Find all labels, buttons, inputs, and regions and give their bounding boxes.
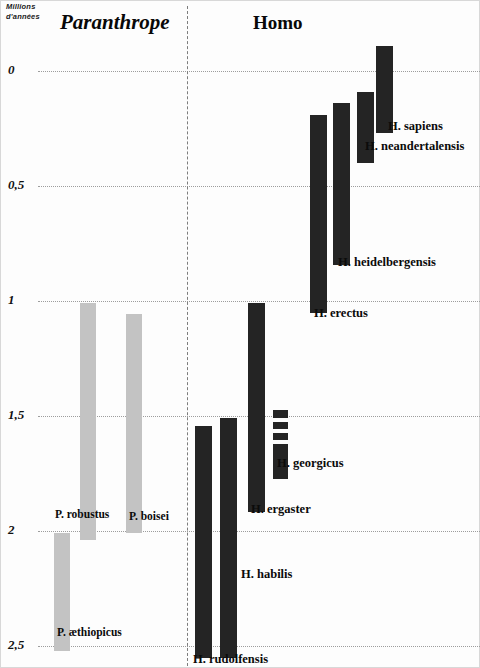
y-tick-label-1: 1: [8, 292, 34, 308]
group-divider-line: [187, 6, 188, 666]
gridline-2: [38, 531, 480, 532]
species-label-h-habilis: H. habilis: [241, 567, 292, 582]
bar-p-boisei: [126, 314, 142, 533]
species-label-h-heidelbergensis: H. heidelbergensis: [338, 255, 436, 270]
group-title-homo: Homo: [253, 12, 303, 34]
bar-h-georgicus-segment-3: [273, 433, 288, 440]
species-label-h-erectus: H. erectus: [314, 306, 368, 321]
bar-p-robustus: [80, 303, 96, 540]
y-tick-label-0: 0: [8, 62, 34, 78]
gridline-2.5: [38, 646, 480, 647]
y-axis-unit-line2: d'années: [6, 12, 40, 22]
y-tick-label-0.5: 0,5: [8, 177, 34, 193]
species-label-p-aethiopicus: P. æthiopicus: [57, 626, 122, 638]
species-label-h-sapiens: H. sapiens: [388, 119, 443, 134]
species-label-h-ergaster: H. ergaster: [251, 502, 311, 517]
bar-h-heidelbergensis: [333, 103, 350, 265]
species-label-h-neandertalensis: H. neandertalensis: [365, 139, 464, 154]
gridline-0.5: [38, 186, 480, 187]
frame-left-border: [0, 0, 1, 668]
species-label-p-boisei: P. boisei: [129, 510, 169, 522]
y-tick-label-2: 2: [8, 522, 34, 538]
bar-h-georgicus-segment-1: [273, 410, 288, 418]
bar-h-erectus: [310, 115, 327, 313]
gridline-0: [38, 71, 480, 72]
bar-h-rudolfensis: [195, 426, 212, 658]
species-label-h-rudolfensis: H. rudolfensis: [193, 652, 268, 667]
bar-h-georgicus-segment-2: [273, 422, 288, 429]
frame-top-border: [0, 0, 480, 1]
hominid-timeline-chart: Millions d'années 00,511,522,5 Paranthro…: [0, 0, 480, 668]
y-tick-label-2.5: 2,5: [8, 637, 34, 653]
y-tick-label-1.5: 1,5: [8, 407, 34, 423]
y-axis-unit-caption: Millions d'années: [6, 2, 40, 22]
species-label-h-georgicus: H. georgicus: [277, 456, 344, 471]
y-axis-unit-line1: Millions: [6, 2, 40, 12]
group-title-paranthrope: Paranthrope: [60, 10, 170, 35]
gridline-1: [38, 301, 480, 302]
bar-h-ergaster: [248, 303, 265, 512]
bar-h-habilis: [220, 418, 237, 658]
species-label-p-robustus: P. robustus: [55, 508, 109, 520]
